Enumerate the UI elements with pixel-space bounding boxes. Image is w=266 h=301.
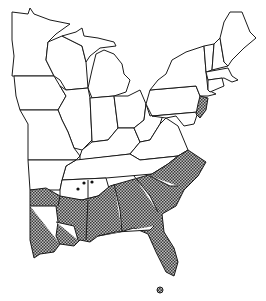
state-iowa (14, 76, 66, 110)
record-dot (76, 187, 79, 190)
state-connecticut (208, 78, 224, 92)
record-dot (90, 180, 93, 183)
state-pennsylvania (146, 86, 204, 116)
state-michigan-lp (88, 50, 130, 98)
state-maine (220, 12, 256, 66)
record-dot (82, 181, 85, 184)
range-map (0, 0, 266, 301)
island-keys (157, 287, 163, 293)
